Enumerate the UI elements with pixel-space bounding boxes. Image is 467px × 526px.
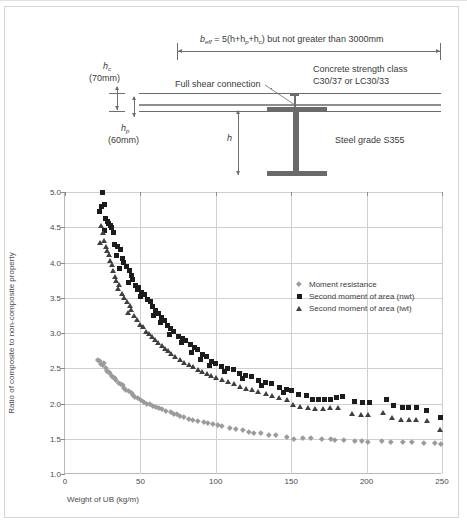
y-tick-label: 2.0 bbox=[50, 399, 61, 408]
data-point-diamond bbox=[379, 438, 384, 443]
y-tick-mark bbox=[61, 368, 65, 369]
x-tick-mark bbox=[140, 192, 141, 196]
shear-stud-shank bbox=[294, 95, 296, 107]
data-point-diamond bbox=[233, 426, 238, 431]
data-point-square bbox=[406, 405, 411, 410]
data-point-triangle bbox=[406, 417, 412, 422]
data-point-diamond bbox=[227, 425, 232, 430]
data-point-square bbox=[179, 340, 184, 345]
data-point-square bbox=[414, 405, 419, 410]
hp-label: hp bbox=[121, 123, 129, 133]
h-arrow-down bbox=[236, 171, 240, 175]
data-point-square bbox=[438, 415, 443, 420]
data-point-square bbox=[256, 378, 261, 383]
data-point-square bbox=[213, 361, 218, 366]
y-tick-mark bbox=[61, 404, 65, 405]
data-point-diamond bbox=[308, 435, 313, 440]
data-point-triangle bbox=[358, 412, 364, 417]
legend-item[interactable]: Second moment of area (lwt) bbox=[293, 302, 414, 314]
legend-item[interactable]: Moment resistance bbox=[293, 278, 414, 290]
data-point-square bbox=[130, 277, 135, 282]
data-point-triangle bbox=[312, 406, 318, 411]
y-axis-label: Ratio of composite to non-composite prop… bbox=[7, 252, 16, 413]
data-point-square bbox=[316, 397, 321, 402]
hp-arrow-up bbox=[132, 96, 136, 100]
hp-value: (60mm) bbox=[108, 135, 139, 145]
data-point-triangle bbox=[297, 404, 303, 409]
x-tick-label: 100 bbox=[209, 477, 222, 486]
x-tick-label: 250 bbox=[435, 477, 448, 486]
data-point-square bbox=[138, 294, 143, 299]
legend-marker-diamond-icon bbox=[293, 282, 305, 286]
data-point-triangle bbox=[389, 415, 395, 420]
x-tick-mark bbox=[65, 192, 66, 196]
gridline-horizontal bbox=[65, 227, 442, 228]
hc-value: (70mm) bbox=[89, 73, 120, 83]
data-point-square bbox=[198, 357, 203, 362]
data-point-square bbox=[391, 403, 396, 408]
data-point-square bbox=[259, 383, 264, 388]
concrete-class-line1: Concrete strength class bbox=[313, 64, 408, 74]
legend-label: Second moment of area (nwt) bbox=[309, 292, 414, 301]
data-point-triangle bbox=[305, 405, 311, 410]
data-point-square bbox=[296, 392, 301, 397]
y-tick-label: 2.5 bbox=[50, 364, 61, 373]
data-point-square bbox=[162, 318, 167, 323]
legend-item[interactable]: Second moment of area (nwt) bbox=[293, 290, 414, 302]
gridline-horizontal bbox=[65, 192, 442, 193]
x-tick-mark bbox=[216, 192, 217, 196]
data-point-triangle bbox=[109, 262, 115, 267]
data-point-square bbox=[114, 253, 119, 258]
hp-arrow-down bbox=[132, 113, 136, 117]
data-point-diamond bbox=[409, 440, 414, 445]
data-point-diamond bbox=[400, 440, 405, 445]
x-tick-mark bbox=[367, 192, 368, 196]
gridline-vertical bbox=[291, 192, 292, 474]
data-point-square bbox=[304, 393, 309, 398]
hc-bot-tick bbox=[109, 111, 125, 112]
chart-legend: Moment resistanceSecond moment of area (… bbox=[293, 278, 414, 314]
h-dimension-line bbox=[238, 111, 239, 175]
data-point-triangle bbox=[413, 417, 419, 422]
data-point-square bbox=[231, 367, 236, 372]
beam-web bbox=[293, 111, 299, 171]
data-point-square bbox=[167, 332, 172, 337]
hc-arrow-down bbox=[115, 106, 119, 110]
steel-grade-label: Steel grade S355 bbox=[335, 135, 405, 145]
concrete-class-line2: C30/37 or LC30/33 bbox=[313, 76, 389, 86]
y-tick-label: 3.0 bbox=[50, 329, 61, 338]
data-point-triangle bbox=[110, 268, 116, 273]
data-point-diamond bbox=[292, 436, 297, 441]
legend-marker-triangle-icon bbox=[293, 306, 305, 311]
y-tick-label: 5.0 bbox=[50, 188, 61, 197]
beff-formula: beff = 5(h+hp+hc) but not greater than 3… bbox=[200, 34, 383, 44]
data-point-square bbox=[102, 202, 107, 207]
data-point-triangle bbox=[335, 405, 341, 410]
data-point-diamond bbox=[388, 439, 393, 444]
data-point-diamond bbox=[352, 438, 357, 443]
x-tick-label: 0 bbox=[63, 477, 67, 486]
x-tick-label: 200 bbox=[360, 477, 373, 486]
hc-arrow-up bbox=[115, 86, 119, 90]
data-point-square bbox=[269, 381, 274, 386]
data-point-diamond bbox=[266, 432, 271, 437]
data-point-square bbox=[151, 313, 156, 318]
data-point-square bbox=[424, 408, 429, 413]
data-point-square bbox=[117, 266, 122, 271]
data-point-diamond bbox=[366, 439, 371, 444]
data-point-triangle bbox=[327, 405, 333, 410]
data-point-square bbox=[340, 394, 345, 399]
data-point-triangle bbox=[349, 411, 355, 416]
data-point-triangle bbox=[98, 223, 104, 228]
cross-section-diagram: beff = 5(h+hp+hc) but not greater than 3… bbox=[5, 7, 460, 183]
y-tick-mark bbox=[61, 439, 65, 440]
data-point-diamond bbox=[319, 436, 324, 441]
data-point-diamond bbox=[251, 430, 256, 435]
y-tick-label: 1.0 bbox=[50, 470, 61, 479]
h-label: h bbox=[227, 133, 232, 143]
data-point-square bbox=[237, 371, 242, 376]
shear-stud-head bbox=[290, 94, 299, 96]
data-point-square bbox=[111, 230, 116, 235]
data-point-square bbox=[352, 399, 357, 404]
data-point-square bbox=[158, 320, 163, 325]
